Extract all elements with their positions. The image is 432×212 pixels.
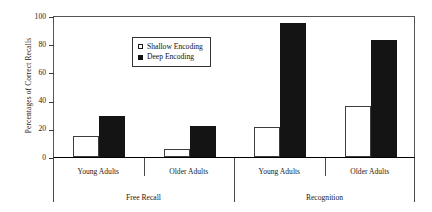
x-condition-label-1: Recognition bbox=[234, 184, 415, 210]
bar-deep-0 bbox=[99, 116, 125, 157]
x-axis-major-separator bbox=[234, 158, 235, 202]
x-axis-left-edge bbox=[53, 158, 54, 202]
x-subgroup-label-0: Young Adults bbox=[53, 158, 144, 184]
x-axis: Young AdultsOlder AdultsYoung AdultsOlde… bbox=[53, 158, 415, 212]
bar-shallow-1 bbox=[164, 149, 190, 157]
bar-deep-1 bbox=[190, 126, 216, 157]
y-axis-title: Percentages of Correct Recalls bbox=[24, 6, 33, 166]
x-subgroup-label-3: Older Adults bbox=[325, 158, 416, 184]
x-axis-minor-separator-2 bbox=[325, 158, 326, 176]
legend-label-deep-encoding: Deep Encoding bbox=[147, 53, 194, 61]
bar-shallow-0 bbox=[73, 136, 99, 157]
y-tick-label-100: 100 bbox=[35, 12, 46, 21]
bar-deep-3 bbox=[371, 40, 397, 157]
y-tick-label-0: 0 bbox=[42, 153, 46, 162]
chart-legend: Shallow Encoding Deep Encoding bbox=[132, 37, 211, 67]
plot-area: 020406080100 Shallow Encoding Deep Encod… bbox=[53, 16, 415, 158]
bar-deep-2 bbox=[280, 23, 306, 157]
x-subgroup-label-2: Young Adults bbox=[234, 158, 325, 184]
y-tick-label-40: 40 bbox=[38, 96, 46, 105]
filled-square-icon bbox=[138, 55, 143, 60]
y-tick-label-80: 80 bbox=[38, 40, 46, 49]
x-condition-label-0: Free Recall bbox=[53, 184, 234, 210]
y-tick-label-20: 20 bbox=[38, 124, 46, 133]
x-subgroup-label-1: Older Adults bbox=[144, 158, 235, 184]
legend-item-shallow-encoding: Shallow Encoding bbox=[138, 42, 203, 52]
x-axis-right-edge bbox=[414, 158, 415, 202]
bar-chart-figure: Percentages of Correct Recalls 020406080… bbox=[0, 0, 432, 212]
legend-item-deep-encoding: Deep Encoding bbox=[138, 52, 203, 62]
open-square-icon bbox=[138, 44, 143, 49]
legend-label-shallow-encoding: Shallow Encoding bbox=[147, 43, 203, 51]
y-tick-label-60: 60 bbox=[38, 68, 46, 77]
bar-shallow-2 bbox=[254, 127, 280, 157]
bar-group-container bbox=[54, 17, 414, 157]
bar-shallow-3 bbox=[345, 106, 371, 157]
x-axis-minor-separator-1 bbox=[144, 158, 145, 176]
